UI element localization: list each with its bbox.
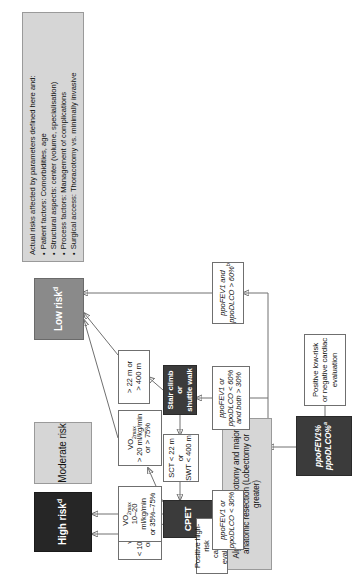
ppo-lt30-line2: ppoDLCO < 30% (227, 492, 236, 548)
vo2max-high-line3: or > 75% (143, 423, 152, 453)
legend-item-patient-factors: Patient factors: Comorbidities, age (39, 19, 49, 255)
pos-low-line1: Positive low-risk (311, 343, 320, 397)
vo2max-high-line2: > 20 ml/kg/min (135, 414, 144, 462)
ppo-gt60-node: ppoFEV1 and ppoDLCO > 60%b (212, 262, 244, 324)
high-risk-node: High riskd (34, 492, 92, 552)
vo2max-high-line1: VO2max (126, 426, 135, 449)
moderate-risk-label: Moderate risk (57, 423, 69, 483)
pos-low-line2: or negative cardiac (320, 338, 329, 402)
ppo-mid-node: ppoFEV1 or ppoDLCO < 60% and both > 30% (212, 366, 250, 430)
ppo-entry-node: ppoFEV1% ppoDLCO%a (296, 416, 352, 476)
high-risk-label: High risk (57, 503, 68, 545)
legend-item-surgical-access: Surgical access: Thoracotomy vs. minimal… (69, 19, 79, 255)
walk-pass-line1: > 22 m or (125, 361, 134, 393)
positive-low-risk-cardiac-eval-node: Positive low-risk or negative cardiac ev… (304, 334, 346, 406)
cpet-label: CPET (182, 501, 193, 537)
walk-pass-line2: > 400 m (134, 363, 143, 391)
pos-high-line1: Positive high-risk (193, 524, 211, 568)
flowchart-canvas: Algorithm for thoracotomy and major anat… (0, 0, 354, 578)
legend-item-process-factors: Process factors: Management of complicat… (59, 19, 69, 255)
low-risk-superscript: d (51, 287, 60, 291)
high-risk-superscript: d (55, 499, 64, 503)
sct-swt-node: SCT < 22 m or SWT < 400 m (163, 434, 199, 482)
ppo-mid-line2: ppoDLCO < 60% (226, 370, 235, 426)
legend-list: Patient factors: Comorbidities, age Stru… (39, 19, 79, 255)
ppo-lt30-node: ppoFEV1 or ppoDLCO < 30% (212, 490, 244, 550)
vo2max-mid-line1: VO2max (121, 502, 130, 525)
edge-walk-pass-to-low-risk (84, 313, 118, 355)
legend-heading: Actual risks affected by parameters defi… (28, 19, 38, 255)
vo2max-mid-line2: 10–20 ml/kg/min (130, 498, 148, 530)
ppo-mid-line3: and both > 30% (234, 372, 243, 424)
ppo-gt60-line2: ppoDLCO > 60%b (227, 263, 236, 322)
ppo-lt30-line1: ppoFEV1 or (218, 500, 227, 540)
sct-swt-line1: SCT < 22 m or (167, 438, 185, 478)
ppo-entry-line2: ppoDLCO%a (324, 422, 333, 470)
figure-rotation-wrapper: Algorithm for thoracotomy and major anat… (0, 0, 354, 578)
low-risk-label: Low risk (53, 291, 64, 331)
vo2max-high-node: VO2max > 20 ml/kg/min or > 75% (118, 410, 162, 466)
pos-low-line3: evaluation (330, 353, 339, 388)
ppo-gt60-line1: ppoFEV1 and (218, 270, 227, 315)
moderate-risk-node: Moderate risk (34, 422, 92, 484)
sct-swt-line2: SWT < 400 m (184, 435, 193, 480)
ppo-mid-line1: ppoFEV1 or (217, 378, 226, 418)
legend-box: Actual risks affected by parameters defi… (22, 12, 84, 262)
walk-test-pass-node: > 22 m or > 400 m (118, 350, 150, 404)
edge-stair-to-walk-pass (148, 377, 163, 390)
legend-item-structural-aspects: Structural aspects: center (volume, spec… (49, 19, 59, 255)
vo2max-mid-line3: or 35%–75% (148, 493, 157, 535)
low-risk-node: Low riskd (34, 278, 84, 340)
stair-line1: Stair climb or (166, 371, 184, 410)
stair-climb-shuttle-walk-node: Stair climb or shuttle walk (163, 365, 197, 415)
vo2max-mid-node: VO2max 10–20 ml/kg/min or 35%–75% (118, 486, 162, 542)
stair-line2: shuttle walk (185, 368, 194, 411)
edge-vo2-high-to-low-risk (84, 320, 118, 438)
ppo-entry-line1: ppoFEV1% (314, 425, 323, 467)
